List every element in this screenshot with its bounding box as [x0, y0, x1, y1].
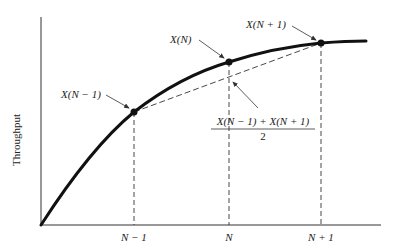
- label-x-n-plus-1: X(N + 1): [245, 18, 286, 31]
- midpoint-numerator: X(N − 1) + X(N + 1): [216, 115, 310, 128]
- midpoint-denominator: 2: [260, 130, 266, 142]
- throughput-curve: [41, 41, 366, 225]
- point-x-n-minus-1: [131, 109, 138, 116]
- label-x-n: X(N): [169, 33, 192, 46]
- arrow-x-n: [199, 40, 224, 58]
- arrow-x-n-plus-1: [292, 26, 316, 40]
- point-x-n-plus-1: [318, 40, 325, 47]
- x-tick-n-minus-1: N − 1: [120, 231, 147, 243]
- throughput-diagram: Throughput X(N − 1) X(N) X(N + 1) X(N − …: [0, 0, 398, 250]
- x-tick-n: N: [224, 231, 233, 243]
- dashed-chord: [134, 43, 321, 112]
- x-tick-n-plus-1: N + 1: [307, 231, 334, 243]
- y-axis-label: Throughput: [10, 114, 22, 166]
- point-x-n: [226, 59, 233, 66]
- arrow-midpoint: [233, 82, 258, 108]
- label-x-n-minus-1: X(N − 1): [60, 88, 101, 101]
- arrow-x-n-minus-1: [106, 95, 129, 108]
